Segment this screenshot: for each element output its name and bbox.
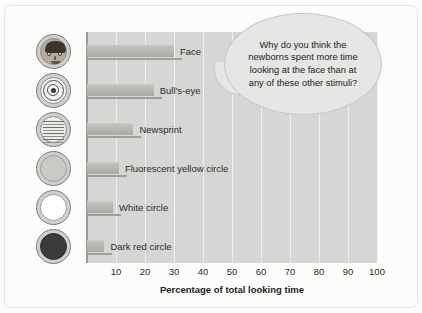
face-mouth-shape [51,61,60,64]
gridline [145,32,146,263]
gridline [116,32,117,263]
bar-baseline [87,97,162,99]
face-nose-shape [54,56,56,60]
bar-category-label: Dark red circle [110,241,171,252]
x-tick-label: 30 [162,266,186,277]
bar-baseline [87,175,127,177]
bar [87,201,113,213]
y-axis-line [86,32,88,263]
bar-category-label: Bull's-eye [160,85,201,96]
gridline [203,32,204,263]
x-tick-label: 100 [365,266,389,277]
x-tick-label: 80 [307,266,331,277]
dark-red-circle-icon [36,229,71,264]
fluorescent-yellow-circle-icon [36,151,71,186]
speech-bubble-text: Why do you think the newborns spent more… [225,39,381,89]
face-hair-shape [45,41,66,53]
stimulus-row-dark-red-circle [31,228,75,264]
x-tick-label: 20 [133,266,157,277]
newsprint-icon [36,112,71,147]
bar [87,240,104,252]
x-tick-label: 60 [249,266,273,277]
bar [87,123,133,135]
face-eye-left-shape [47,52,51,56]
x-tick-label: 10 [104,266,128,277]
bar [87,162,119,174]
stimulus-row-fluorescent-yellow [31,150,75,186]
stimulus-icon-column [31,33,77,263]
stimulus-row-face [31,33,75,69]
stimulus-row-bullseye [31,72,75,108]
bullseye-center-dot-shape [51,88,56,93]
bullseye-icon [36,73,71,108]
bar-baseline [87,253,112,255]
bar-baseline [87,136,141,138]
face-eye-right-shape [58,52,62,56]
bar-baseline [87,58,182,60]
x-tick-label: 70 [278,266,302,277]
x-axis-label: Percentage of total looking time [87,284,377,295]
x-tick-label: 90 [336,266,360,277]
bar [87,84,154,96]
stimulus-row-newsprint [31,111,75,147]
x-tick-label: 50 [220,266,244,277]
bar-category-label: White circle [119,202,168,213]
bar-category-label: Face [180,46,201,57]
bar [87,45,174,57]
figure-container: 10 20 30 40 50 60 70 80 90 100 Percentag… [0,0,422,313]
speech-bubble: Why do you think the newborns spent more… [224,13,382,115]
bar-category-label: Fluorescent yellow circle [125,163,228,174]
bar-category-label: Newsprint [139,124,181,135]
face-icon [36,34,71,69]
gridline [174,32,175,263]
newsprint-text-lines-shape [43,121,64,138]
bar-baseline [87,214,121,216]
x-tick-label: 40 [191,266,215,277]
stimulus-row-white-circle [31,189,75,225]
white-circle-icon [36,190,71,225]
